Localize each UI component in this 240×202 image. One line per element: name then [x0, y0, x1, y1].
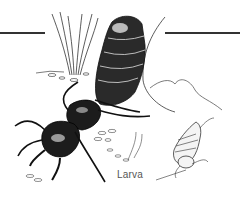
- larva-label: Larva: [117, 169, 143, 180]
- beetle-head: [42, 100, 101, 157]
- illustration: Larva: [0, 0, 240, 202]
- grass-icon: [52, 12, 98, 75]
- larva-icon: [174, 122, 201, 168]
- debris-icon: [36, 71, 89, 81]
